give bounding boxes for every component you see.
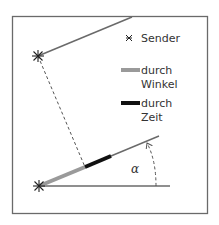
upper-sender-ray (38, 17, 132, 56)
angle-arc (147, 143, 156, 186)
upper-sender-icon (32, 50, 44, 62)
legend-sender-label: Sender (141, 32, 180, 45)
legend-angle-label-2: Winkel (141, 78, 177, 91)
time-segment (85, 156, 111, 167)
dashed-connector (38, 56, 85, 167)
legend-sender-icon (126, 35, 132, 41)
legend-angle-label-1: durch (141, 64, 172, 77)
legend-time-label-2: Zeit (141, 111, 163, 124)
angle-segment (39, 167, 85, 186)
legend: Sender durch Winkel durch Zeit (121, 32, 180, 124)
legend-time-label-1: durch (141, 97, 172, 110)
lower-sender-icon (33, 180, 45, 192)
angle-label: α (131, 162, 139, 176)
diagram-canvas: α Sender durch Winkel durch Zeit (0, 0, 219, 225)
